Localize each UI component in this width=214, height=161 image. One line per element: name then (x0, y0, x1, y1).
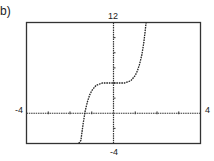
axes (27, 23, 201, 144)
graph-window (0, 0, 214, 161)
function-curve (79, 23, 146, 144)
